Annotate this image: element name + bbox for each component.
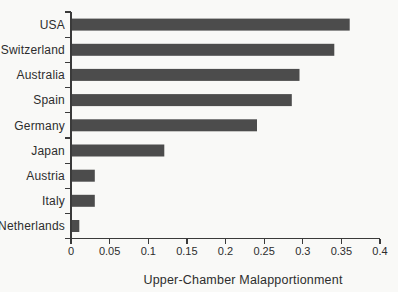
x-tick-label-0.4: 0.4 bbox=[372, 245, 387, 257]
bar-australia bbox=[72, 69, 300, 81]
bars-layer bbox=[72, 19, 350, 232]
bar-austria bbox=[72, 170, 95, 182]
scanned-bar-chart-figure: USASwitzerlandAustraliaSpainGermanyJapan… bbox=[0, 0, 398, 292]
category-label-japan: Japan bbox=[31, 144, 65, 158]
bar-switzerland bbox=[72, 44, 335, 56]
category-label-germany: Germany bbox=[14, 119, 65, 133]
bar-germany bbox=[72, 119, 257, 131]
x-tick-label-0.1: 0.1 bbox=[141, 245, 156, 257]
bar-japan bbox=[72, 145, 165, 157]
x-tick-label-0.25: 0.25 bbox=[253, 245, 274, 257]
x-tick-label-0.05: 0.05 bbox=[99, 245, 120, 257]
bar-spain bbox=[72, 94, 292, 106]
category-label-spain: Spain bbox=[33, 93, 65, 107]
x-tick-label-0.15: 0.15 bbox=[176, 245, 197, 257]
malapportionment-bar-chart: USASwitzerlandAustraliaSpainGermanyJapan… bbox=[0, 0, 398, 292]
category-label-australia: Australia bbox=[17, 68, 66, 82]
category-label-switzerland: Switzerland bbox=[1, 43, 65, 57]
category-label-netherlands: Netherlands bbox=[0, 219, 65, 233]
x-tick-label-0.2: 0.2 bbox=[218, 245, 233, 257]
bar-netherlands bbox=[72, 220, 80, 232]
x-tick-label-0.3: 0.3 bbox=[295, 245, 310, 257]
category-label-italy: Italy bbox=[42, 194, 65, 208]
x-tick-label-0.35: 0.35 bbox=[331, 245, 352, 257]
x-axis-title: Upper-Chamber Malapportionment bbox=[143, 273, 342, 287]
category-label-usa: USA bbox=[40, 18, 65, 32]
bar-italy bbox=[72, 195, 95, 207]
category-label-austria: Austria bbox=[26, 169, 65, 183]
bar-usa bbox=[72, 19, 350, 31]
x-tick-label-0: 0 bbox=[68, 245, 74, 257]
